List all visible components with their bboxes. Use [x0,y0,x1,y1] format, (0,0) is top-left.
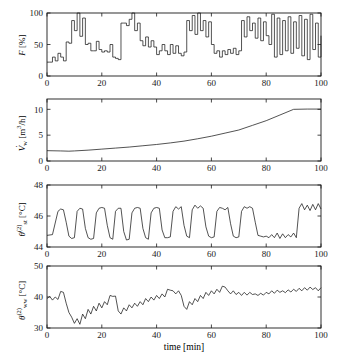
data-trace [47,286,321,324]
x-tick-label: 80 [262,330,272,340]
x-tick-label: 20 [97,330,107,340]
y-tick-label: 30 [34,323,44,333]
x-tick-label: 100 [314,330,328,340]
x-tick-label: 60 [207,330,217,340]
axes-frame [47,266,321,328]
figure-multipanel-timeseries: 020406080100050100F [%]0204060801000510V… [0,0,344,352]
plot-panel-4: 020406080100304050 [0,0,344,352]
y-tick-label: 40 [34,292,44,302]
y-tick-label: 50 [34,261,44,271]
x-axis-label: time [min] [47,342,321,352]
plot-area-4: 020406080100304050 [0,0,344,352]
x-tick-label: 40 [152,330,162,340]
y-axis-label-4: θ(2)ww [°C] [13,278,32,322]
x-tick-label: 0 [45,330,50,340]
